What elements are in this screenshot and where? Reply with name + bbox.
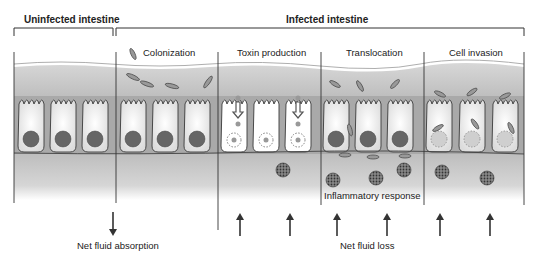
uninfected-header: Uninfected intestine [24,14,120,25]
invasion-nuclei [431,131,513,147]
stage-translocation: Translocation [346,47,403,58]
uninfected-bracket [14,28,113,36]
stage-cell-invasion: Cell invasion [449,47,503,58]
inflammatory-response-label: Inflammatory response [324,190,421,201]
intestine-diagram [0,0,533,262]
infected-bracket [116,28,524,36]
net-fluid-loss-label: Net fluid loss [340,240,394,251]
stage-toxin-production: Toxin production [237,47,306,58]
lumen [14,62,524,98]
infected-header: Infected intestine [286,14,368,25]
net-fluid-absorption-label: Net fluid absorption [77,240,159,251]
fluid-arrows [109,212,494,236]
stage-colonization: Colonization [143,47,195,58]
